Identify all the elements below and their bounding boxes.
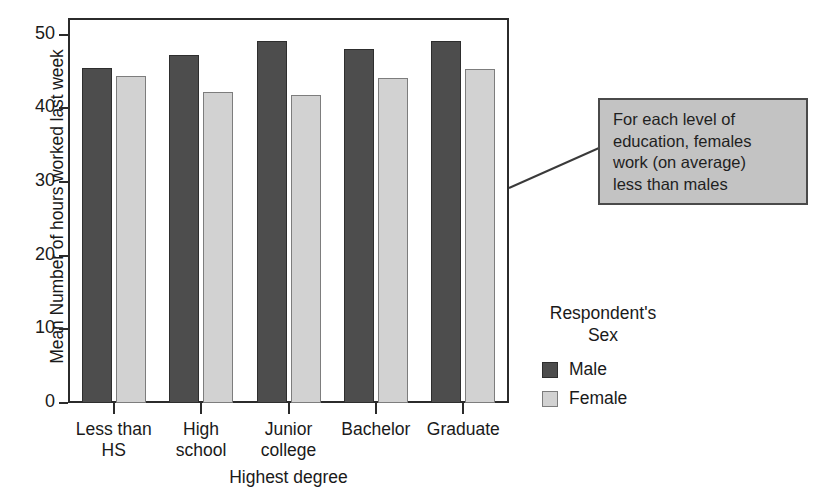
bar-female-0: [116, 76, 146, 403]
annotation-line: work (on average): [613, 152, 796, 174]
annotation-line: education, females: [613, 131, 796, 153]
legend-item-male: Male: [542, 355, 704, 384]
legend-label-male: Male: [569, 359, 607, 380]
y-tick-mark: [59, 255, 68, 257]
x-tick-label: Graduate: [388, 419, 538, 440]
y-axis-tick: 0: [20, 403, 68, 404]
bar-female-2: [291, 95, 321, 403]
legend-title-line-1: Respondent's: [519, 302, 687, 324]
y-axis-tick: 10: [20, 329, 68, 330]
legend-title-line-2: Sex: [519, 324, 687, 346]
y-axis-tick: 30: [20, 182, 68, 183]
y-tick-label: 0: [45, 391, 55, 412]
y-tick-mark: [59, 34, 68, 36]
bar-chart: Mean Number of hours worked last week 01…: [0, 0, 815, 501]
bar-female-4: [465, 69, 495, 403]
y-tick-mark: [59, 181, 68, 183]
y-tick-label: 20: [35, 244, 55, 265]
bar-male-0: [82, 68, 112, 403]
legend-items: MaleFemale: [519, 355, 704, 413]
x-tick-mark: [462, 403, 464, 414]
bar-female-1: [203, 92, 233, 403]
annotation-text: For each level ofeducation, femaleswork …: [613, 109, 796, 195]
annotation-line: For each level of: [613, 109, 796, 131]
annotation-callout: For each level ofeducation, femaleswork …: [598, 98, 808, 205]
y-axis-tick: 50: [20, 35, 68, 36]
legend-swatch-female: [542, 391, 558, 407]
bar-male-1: [169, 55, 199, 403]
y-tick-mark: [59, 328, 68, 330]
y-tick-mark: [59, 107, 68, 109]
legend-title: Respondent's Sex: [519, 302, 687, 346]
y-tick-label: 50: [35, 23, 55, 44]
x-tick-mark: [375, 403, 377, 414]
x-axis-title: Highest degree: [68, 467, 509, 488]
y-axis-title: Mean Number of hours worked last week: [47, 12, 68, 402]
y-axis-tick: 40: [20, 108, 68, 109]
x-tick-mark: [113, 403, 115, 414]
y-tick-label: 10: [35, 317, 55, 338]
bar-male-2: [257, 41, 287, 403]
legend-item-female: Female: [542, 384, 704, 413]
bars-layer: [70, 20, 507, 403]
bar-male-3: [344, 49, 374, 403]
y-tick-label: 30: [35, 170, 55, 191]
legend: Respondent's Sex MaleFemale: [519, 302, 704, 413]
x-tick-label-line: Graduate: [388, 419, 538, 440]
legend-label-female: Female: [569, 388, 627, 409]
annotation-line: less than males: [613, 174, 796, 196]
x-tick-label-line: college: [214, 440, 364, 461]
y-tick-label: 40: [35, 96, 55, 117]
x-tick-mark: [288, 403, 290, 414]
bar-female-3: [378, 78, 408, 403]
y-tick-mark: [59, 402, 68, 404]
callout-leader-line: [500, 130, 610, 200]
x-tick-mark: [200, 403, 202, 414]
bar-male-4: [431, 41, 461, 403]
legend-swatch-male: [542, 362, 558, 378]
y-axis-tick: 20: [20, 256, 68, 257]
